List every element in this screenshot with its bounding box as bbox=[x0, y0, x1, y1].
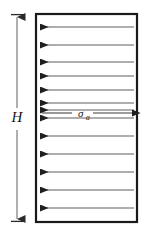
stress-subscript: a bbox=[86, 113, 90, 122]
height-label: H bbox=[11, 109, 24, 125]
stress-symbol: σ bbox=[78, 107, 84, 119]
figure-canvas: H σ a bbox=[0, 0, 148, 235]
stress-diagram-figure: H σ a bbox=[0, 0, 148, 235]
